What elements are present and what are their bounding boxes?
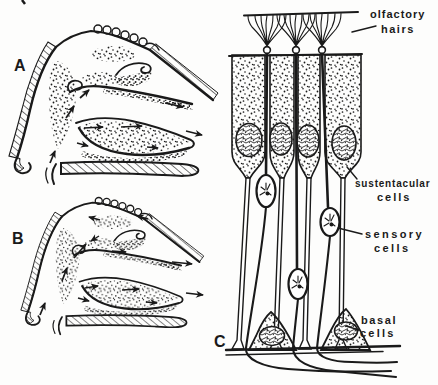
label-basal-cells-line1: basal [361, 314, 397, 326]
olfactory-knobs [264, 47, 326, 54]
stray-crop-mark [22, 0, 25, 4]
panel-letter-c: C [214, 333, 226, 350]
label-sustentacular-cells-line1: sustentacular [355, 178, 430, 189]
label-sustentacular-cells-line2: cells [377, 191, 411, 203]
panel-letter-b: B [12, 230, 24, 247]
panel-a-nasal-cavity-drawing [9, 25, 218, 184]
panel-letter-a: A [14, 57, 26, 74]
figure-canvas: A B [0, 0, 438, 385]
panel-b-nasal-cavity-drawing [21, 198, 204, 335]
pointer-olfactory-hairs [352, 26, 376, 32]
panel-b: B [12, 198, 204, 335]
olfactory-hairs-tufts [248, 14, 341, 47]
panel-a: A [9, 25, 218, 184]
label-basal-cells-line2: cells [360, 327, 395, 339]
label-sensory-cells-line2: cells [374, 242, 410, 254]
label-olfactory-hairs-line1: olfactory [370, 8, 425, 20]
panel-c: olfactory hairs sustentacular cells sens… [214, 8, 430, 378]
label-olfactory-hairs-line2: hairs [381, 23, 415, 35]
label-sensory-cells-line1: sensory [365, 228, 424, 240]
basal-cells-group [249, 309, 370, 350]
figure-page: A B [0, 0, 438, 385]
